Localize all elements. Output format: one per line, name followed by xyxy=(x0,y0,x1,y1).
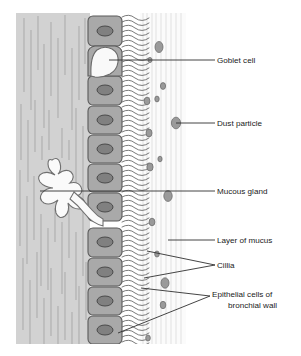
epithelial-cell xyxy=(88,76,122,105)
label-text-dust-particle: Dust particle xyxy=(217,119,262,128)
dust-particle xyxy=(146,129,152,137)
epithelial-cell xyxy=(88,228,122,257)
epithelial-cell xyxy=(88,106,122,134)
dust-particle xyxy=(155,96,159,102)
label-text-goblet-cell: Goblet cell xyxy=(217,56,255,65)
dust-particle xyxy=(144,97,150,105)
epithelial-cell xyxy=(88,16,122,46)
label-text-mucous-gland: Mucous gland xyxy=(217,187,267,196)
label-text-layer-of-mucus: Layer of mucus xyxy=(217,236,272,245)
label-text-cillia: Cillia xyxy=(217,261,235,270)
dust-particle xyxy=(161,278,169,288)
dust-particle xyxy=(155,251,160,257)
cell-nucleus xyxy=(97,237,113,247)
cell-nucleus xyxy=(97,267,113,277)
dust-particle xyxy=(160,301,166,308)
bronchial-wall-diagram: Goblet cellDust particleMucous glandLaye… xyxy=(0,0,301,356)
dust-particle xyxy=(160,83,165,90)
cell-nucleus xyxy=(97,173,113,183)
epithelial-cell xyxy=(88,135,122,163)
cell-nucleus xyxy=(97,115,113,125)
cell-nucleus xyxy=(97,85,113,95)
cell-nucleus xyxy=(97,296,113,306)
cell-nucleus xyxy=(97,325,113,335)
dust-particle xyxy=(146,335,151,341)
cell-nucleus xyxy=(97,144,113,154)
epithelial-cell xyxy=(88,258,122,286)
dust-particle xyxy=(147,163,153,171)
dust-particle xyxy=(158,156,162,162)
dust-particle xyxy=(155,42,163,53)
dust-particle xyxy=(164,191,172,202)
epithelial-cell xyxy=(88,316,122,344)
dust-particle xyxy=(149,218,155,226)
epithelial-cell xyxy=(88,164,122,192)
epithelial-cell xyxy=(88,287,122,315)
cell-nucleus xyxy=(97,202,113,212)
goblet-cell xyxy=(88,46,122,77)
cell-nucleus xyxy=(97,26,113,36)
